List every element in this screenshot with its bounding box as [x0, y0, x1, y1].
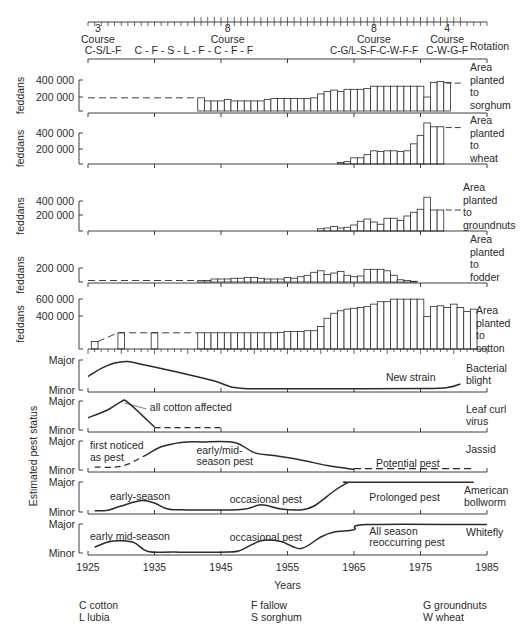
bar	[351, 225, 358, 231]
bar	[284, 332, 291, 349]
y-axis-label: feddans	[14, 305, 26, 342]
y-axis-label: feddans	[14, 256, 26, 293]
bar	[411, 86, 418, 111]
pest-label: blight	[466, 374, 491, 386]
bar	[357, 89, 364, 111]
rotation-sequence: C-W-G-F	[426, 44, 468, 56]
bar	[304, 331, 311, 349]
bar	[371, 86, 378, 111]
bar	[284, 278, 291, 282]
bar	[351, 308, 358, 349]
legend-entry: G groundnuts	[423, 599, 487, 611]
rotation-sequence: C-G/L-S-F-C-W-F-F	[330, 45, 418, 56]
level-major-label: Major	[49, 395, 76, 407]
x-tick-label: 1945	[209, 561, 233, 573]
chart-svg: 3CourseC-S/L-F8CourseC - F - S - L - F -…	[0, 0, 524, 637]
pest-panel-bacterial-blight: MajorMinorNew strainBacterialblight	[49, 354, 507, 396]
rotation-ruler: 3CourseC-S/L-F8CourseC - F - S - L - F -…	[81, 17, 509, 63]
pest-panel-whitefly: MajorMinorearly mid-seasonoccasional pes…	[49, 518, 504, 559]
bar	[304, 275, 311, 282]
level-major-label: Major	[49, 435, 76, 447]
bar	[357, 158, 364, 164]
bar	[351, 158, 358, 164]
bar	[404, 86, 411, 111]
bar	[317, 271, 324, 282]
series-label: planted	[470, 74, 505, 86]
legend-entry: L lubia	[79, 611, 110, 623]
y-tick-label: 400 000	[36, 74, 74, 86]
curve-annotation: early/mid-	[196, 444, 243, 456]
bar	[377, 269, 384, 282]
series-label: fodder	[470, 271, 500, 283]
bar	[337, 311, 344, 349]
bar	[271, 279, 278, 282]
legend-entry: F fallow	[251, 599, 288, 611]
rotation-course-label: Course	[357, 33, 391, 45]
bar	[317, 327, 324, 349]
annotation-leader	[125, 403, 147, 409]
bar	[331, 90, 338, 111]
bar	[357, 221, 364, 231]
bar-series	[91, 299, 477, 349]
curve-annotation: first noticed	[90, 439, 144, 451]
bar	[337, 272, 344, 282]
bar	[397, 221, 404, 232]
years-axis: 1925193519451955196519751985Years	[76, 561, 499, 591]
bar	[411, 299, 418, 349]
bar	[231, 278, 238, 282]
curve-annotation: as pest	[90, 451, 124, 463]
series-label: to	[470, 139, 479, 151]
bar	[284, 99, 291, 111]
series-label: Area	[470, 61, 492, 73]
y-tick-label: 400 000	[36, 127, 74, 139]
bar	[404, 281, 411, 282]
bar	[364, 155, 371, 164]
bar	[278, 279, 285, 282]
bar	[411, 281, 418, 282]
bar	[211, 101, 218, 111]
bar	[384, 218, 391, 231]
bar	[311, 98, 318, 111]
bar	[417, 299, 424, 349]
level-major-label: Major	[49, 476, 76, 488]
curve-annotation: reoccurring pest	[369, 536, 444, 548]
bar	[377, 152, 384, 164]
bar	[204, 101, 211, 111]
curve-annotation: early mid-season	[90, 530, 170, 542]
level-major-label: Major	[49, 354, 76, 366]
bar	[198, 281, 205, 282]
bar	[238, 278, 245, 282]
bar	[444, 307, 451, 349]
bar	[437, 127, 444, 164]
y-tick-label: 400 000	[36, 195, 74, 207]
bar	[357, 276, 364, 282]
bar	[377, 86, 384, 111]
bar	[404, 151, 411, 164]
series-label: wheat	[469, 152, 498, 164]
bar	[271, 99, 278, 111]
bar	[430, 307, 437, 349]
series-label: planted	[463, 194, 498, 206]
bar	[384, 271, 391, 282]
x-tick-label: 1935	[143, 561, 167, 573]
series-label: Area	[470, 114, 492, 126]
bar	[450, 304, 457, 349]
bar	[397, 152, 404, 164]
series-label: planted	[470, 246, 505, 258]
bar	[437, 210, 444, 231]
bar	[211, 333, 218, 349]
area-panel-fodder: 200 000feddansAreaplantedtofodder	[14, 233, 505, 294]
bar	[364, 89, 371, 111]
bar	[218, 333, 225, 349]
series-label: to	[476, 329, 485, 341]
status-curve	[88, 400, 155, 427]
bar	[391, 275, 398, 282]
bar	[331, 313, 338, 349]
bar	[204, 281, 211, 282]
bar	[271, 333, 278, 349]
x-axis-title: Years	[274, 579, 300, 591]
x-tick-label: 1985	[475, 561, 499, 573]
crop-pest-figure: 3CourseC-S/L-F8CourseC - F - S - L - F -…	[0, 0, 524, 637]
bar	[371, 151, 378, 164]
bar	[264, 279, 271, 282]
